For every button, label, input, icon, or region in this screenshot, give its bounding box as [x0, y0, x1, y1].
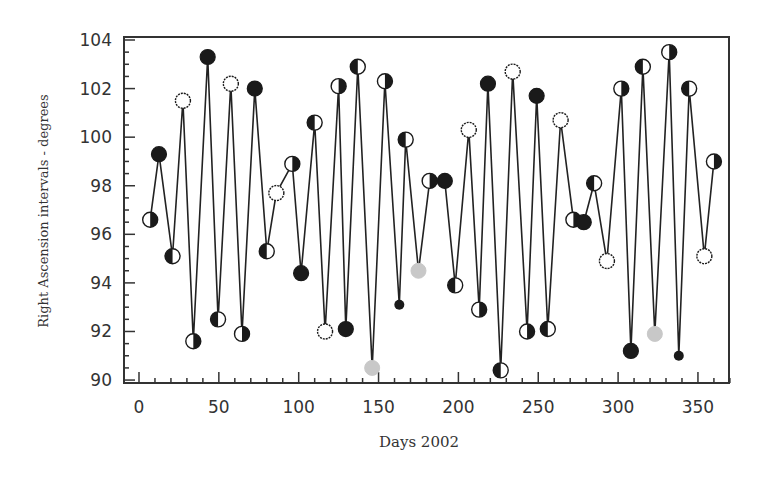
data-point-new [505, 64, 520, 79]
data-point-full [437, 173, 452, 188]
data-point-half_left [635, 59, 650, 74]
data-point-new [697, 249, 712, 264]
data-point-gray [647, 326, 662, 341]
x-tick-label: 200 [442, 397, 474, 417]
x-tick-label: 50 [208, 397, 230, 417]
data-point-full [247, 81, 262, 96]
data-point-half_right [706, 154, 721, 169]
data-point-new [461, 122, 476, 137]
data-point-new [553, 113, 568, 128]
y-tick-label: 90 [90, 370, 112, 390]
data-point-full [200, 50, 215, 65]
data-point-half_left [259, 244, 274, 259]
chart: 9092949698100102104 05010015020025030035… [0, 0, 761, 480]
data-point-half_left [493, 363, 508, 378]
data-point-half_right [143, 212, 158, 227]
data-point-half_left [165, 249, 180, 264]
data-point-half_left [211, 312, 226, 327]
data-point-gray [411, 263, 426, 278]
data-point-new [269, 186, 284, 201]
data-point-half_right [472, 302, 487, 317]
data-point-full [338, 322, 353, 337]
y-tick-label: 92 [90, 321, 112, 341]
x-tick-label: 150 [362, 397, 394, 417]
data-point-half_right [662, 45, 677, 60]
x-tick-label: 250 [522, 397, 554, 417]
data-point-full [529, 88, 544, 103]
y-tick-label: 100 [80, 127, 112, 147]
data-point-half_right [614, 81, 629, 96]
y-axis-title: Right Ascension intervals - degrees [36, 94, 51, 327]
data-point-half_right [377, 74, 392, 89]
y-tick-label: 104 [80, 30, 112, 50]
x-tick-label: 300 [602, 397, 634, 417]
x-tick-label: 0 [134, 397, 145, 417]
y-tick-label: 102 [80, 79, 112, 99]
data-point-new [318, 324, 333, 339]
data-point-small_dark [394, 300, 404, 310]
y-axis-tick-labels: 9092949698100102104 [80, 30, 112, 390]
data-point-half_left [682, 81, 697, 96]
x-tick-label: 100 [282, 397, 314, 417]
data-point-half_left [350, 59, 365, 74]
data-point-full [480, 76, 495, 91]
data-point-new [599, 254, 614, 269]
x-tick-label: 350 [682, 397, 714, 417]
data-point-full [151, 147, 166, 162]
x-axis-tick-labels: 050100150200250300350 [134, 397, 715, 417]
y-tick-label: 96 [90, 224, 112, 244]
data-point-half_left [587, 176, 602, 191]
data-point-new [223, 76, 238, 91]
data-point-half_right [331, 79, 346, 94]
y-tick-label: 94 [90, 273, 112, 293]
data-point-half_left [540, 322, 555, 337]
data-point-half_right [285, 156, 300, 171]
data-point-half_left [307, 115, 322, 130]
data-point-half_right [235, 326, 250, 341]
x-axis-title: Days 2002 [379, 433, 459, 451]
data-point-full [623, 343, 638, 358]
data-point-half_right [422, 173, 437, 188]
data-point-full [576, 215, 591, 230]
data-point-small_dark [674, 351, 684, 361]
data-point-gray [365, 360, 380, 375]
data-point-half_left [398, 132, 413, 147]
data-point-half_right [520, 324, 535, 339]
y-tick-label: 98 [90, 176, 112, 196]
data-point-half_right [186, 334, 201, 349]
data-point-new [175, 93, 190, 108]
data-point-half_left [448, 278, 463, 293]
data-point-full [294, 266, 309, 281]
